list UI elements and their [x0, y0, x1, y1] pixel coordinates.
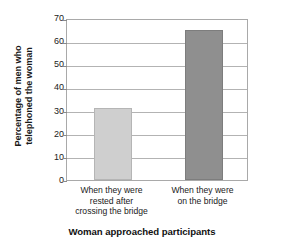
y-axis-tick-label: 70 — [42, 14, 64, 23]
x-axis-category-label-line: When they were — [60, 185, 164, 196]
y-axis-tick-mark — [63, 135, 67, 136]
x-axis-category-label-line: on the bridge — [151, 196, 255, 207]
y-axis-title-line-2: telephoned the woman — [24, 45, 35, 146]
y-axis-tick-mark — [63, 112, 67, 113]
x-axis-category-label: When they wererested aftercrossing the b… — [60, 185, 164, 217]
y-axis-tick-label: 50 — [42, 60, 64, 69]
x-axis-category-labels: When they wererested aftercrossing the b… — [66, 185, 248, 221]
x-axis-category-label-line: crossing the bridge — [60, 206, 164, 217]
y-axis-tick-mark — [63, 20, 67, 21]
y-axis-tick-mark — [63, 66, 67, 67]
x-axis-category-label: When they wereon the bridge — [151, 185, 255, 206]
y-axis-tick-mark — [63, 89, 67, 90]
y-axis-tick-label: 10 — [42, 153, 64, 162]
bar-chart-figure: Percentage of men who telephoned the wom… — [0, 0, 284, 246]
bar — [185, 30, 223, 180]
x-axis-title: Woman approached participants — [0, 226, 284, 237]
y-axis-tick-mark — [63, 158, 67, 159]
y-axis-tick-label: 30 — [42, 107, 64, 116]
x-axis-category-label-line: When they were — [151, 185, 255, 196]
y-axis-title-line-1: Percentage of men who — [13, 45, 24, 146]
plot-area — [66, 19, 248, 181]
x-axis-category-label-line: rested after — [60, 196, 164, 207]
y-axis-tick-mark — [63, 181, 67, 182]
bar — [94, 108, 132, 180]
y-axis-tick-label: 40 — [42, 83, 64, 92]
y-axis-tick-label: 60 — [42, 37, 64, 46]
y-axis-tick-label: 20 — [42, 130, 64, 139]
y-axis-title: Percentage of men who telephoned the wom… — [6, 8, 42, 184]
y-axis-tick-label: 0 — [42, 176, 64, 185]
y-axis-tick-mark — [63, 43, 67, 44]
